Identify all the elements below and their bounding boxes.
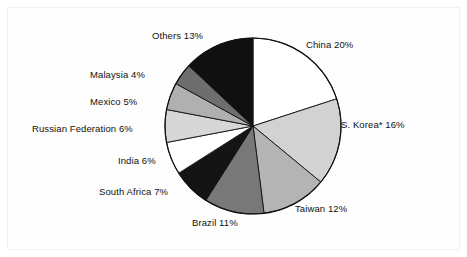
pie-label-brazil: Brazil 11%	[192, 217, 238, 228]
pie-label-malaysia: Malaysia 4%	[90, 69, 145, 80]
pie-slices-group	[165, 38, 341, 214]
pie-label-taiwan: Taiwan 12%	[295, 203, 347, 214]
pie-label-china: China 20%	[306, 39, 353, 50]
pie-label-russian-federation: Russian Federation 6%	[32, 123, 133, 134]
pie-label-india: India 6%	[118, 155, 156, 166]
pie-label-s-korea: S. Korea* 16%	[341, 119, 405, 130]
pie-label-others: Others 13%	[152, 30, 203, 41]
pie-label-mexico: Mexico 5%	[90, 96, 137, 107]
pie-chart-figure: Others 13% China 20% S. Korea* 16% Taiwa…	[0, 0, 467, 257]
pie-label-south-africa: South Africa 7%	[99, 186, 168, 197]
